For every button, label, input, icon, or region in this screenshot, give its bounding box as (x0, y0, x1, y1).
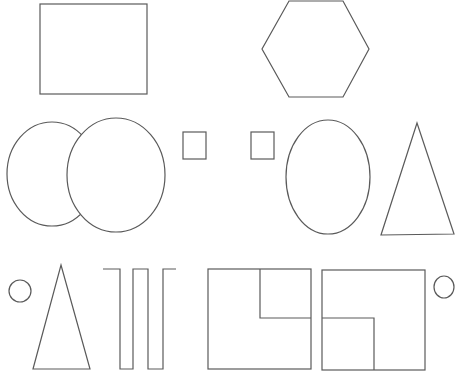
large-square (40, 4, 147, 94)
tall-ellipse (286, 120, 370, 234)
small-square-2 (251, 132, 274, 159)
large-triangle (381, 123, 454, 235)
hexagon (262, 1, 369, 97)
square-wave-line (103, 269, 176, 369)
small-circle-left (9, 280, 31, 302)
small-circle-right (434, 276, 454, 298)
narrow-triangle (33, 265, 90, 369)
shapes-canvas (0, 0, 462, 381)
overlapping-ellipse (67, 118, 165, 232)
small-square-1 (183, 132, 206, 159)
